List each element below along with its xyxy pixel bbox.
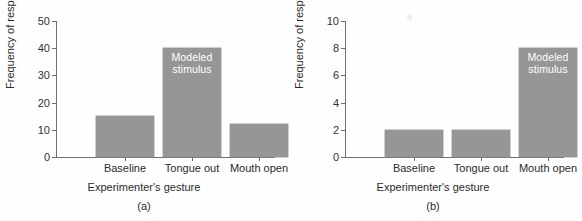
y-axis-line-b: [345, 21, 346, 158]
y-tick-a-5: [52, 21, 56, 22]
y-tick-a-2: [52, 103, 56, 104]
y-axis-label-b: Frequency of response: [293, 0, 305, 89]
y-tick-b-1: [341, 130, 345, 131]
y-tick-label-b-0: 0: [333, 152, 339, 163]
x-tick-b-2: [548, 157, 549, 161]
bar-a-1: Modeledstimulus: [163, 48, 221, 157]
bar-b-0: [385, 130, 443, 157]
x-axis-line-a: [56, 157, 275, 158]
panel-tag-a: (a): [0, 200, 288, 212]
x-tick-b-1: [481, 157, 482, 161]
bar-a-2: [230, 124, 288, 157]
y-tick-label-a-0: 0: [44, 152, 50, 163]
y-tick-a-1: [52, 130, 56, 131]
x-axis-label-b: Experimenter's gesture: [289, 181, 577, 193]
y-tick-a-4: [52, 48, 56, 49]
panel-tag-b: (b): [289, 200, 577, 212]
y-axis-label-a: Frequency of response: [4, 0, 16, 89]
plot-area-a: 01020304050Modeledstimulus: [56, 21, 274, 157]
bar-annotation-line-b-0: Modeled: [519, 52, 577, 64]
y-tick-label-b-5: 10: [327, 16, 339, 27]
x-tick-a-0: [125, 157, 126, 161]
x-tick-a-1: [192, 157, 193, 161]
y-tick-label-a-2: 20: [38, 97, 50, 108]
bar-annotation-b: Modeledstimulus: [519, 52, 577, 75]
x-axis-label-a: Experimenter's gesture: [0, 181, 288, 193]
plot-area-b: 0246810Modeledstimulus: [345, 21, 563, 157]
y-tick-b-3: [341, 75, 345, 76]
y-tick-label-b-4: 8: [333, 43, 339, 54]
y-tick-label-a-1: 10: [38, 124, 50, 135]
x-tick-b-0: [414, 157, 415, 161]
y-tick-label-b-2: 4: [333, 97, 339, 108]
chart-panel-b: Frequency of response 0246810Modeledstim…: [289, 0, 577, 221]
y-tick-b-5: [341, 21, 345, 22]
y-tick-a-3: [52, 75, 56, 76]
y-tick-a-0: [52, 157, 56, 158]
y-tick-b-2: [341, 103, 345, 104]
bar-annotation-line-a-1: stimulus: [163, 64, 221, 76]
y-tick-b-4: [341, 48, 345, 49]
bar-b-2: Modeledstimulus: [519, 48, 577, 157]
bar-annotation-line-a-0: Modeled: [163, 52, 221, 64]
y-tick-label-b-1: 2: [333, 124, 339, 135]
chart-panel-a: Frequency of response 01020304050Modeled…: [0, 0, 288, 221]
y-axis-line-a: [56, 21, 57, 158]
x-tick-a-2: [259, 157, 260, 161]
scan-artifact: [407, 14, 412, 21]
bar-annotation-line-b-1: stimulus: [519, 64, 577, 76]
y-tick-label-a-3: 30: [38, 70, 50, 81]
y-tick-label-a-5: 50: [38, 16, 50, 27]
y-tick-label-b-3: 6: [333, 70, 339, 81]
x-axis-line-b: [345, 157, 564, 158]
x-category-label-b-2: Mouth open: [503, 162, 582, 174]
bar-a-0: [96, 116, 154, 157]
y-tick-b-0: [341, 157, 345, 158]
bar-b-1: [452, 130, 510, 157]
y-tick-label-a-4: 40: [38, 43, 50, 54]
bar-annotation-a: Modeledstimulus: [163, 52, 221, 75]
